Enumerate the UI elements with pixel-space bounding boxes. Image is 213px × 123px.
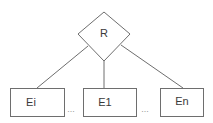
relationship-r: R bbox=[78, 12, 130, 61]
entity-ei: Ei bbox=[11, 89, 65, 117]
entity-label: En bbox=[175, 95, 188, 107]
entity-label: Ei bbox=[26, 96, 36, 108]
edge-r-en bbox=[121, 45, 183, 88]
entity-box bbox=[11, 89, 65, 117]
edge-r-ei bbox=[37, 46, 88, 88]
entity-e1: E1 bbox=[84, 89, 137, 117]
ellipsis: ... bbox=[67, 104, 75, 114]
ellipsis: ... bbox=[141, 104, 149, 114]
er-diagram: R Ei ... E1 ... En bbox=[0, 0, 213, 123]
relationship-label: R bbox=[100, 27, 108, 39]
entity-en: En bbox=[161, 89, 204, 117]
entity-label: E1 bbox=[98, 96, 111, 108]
